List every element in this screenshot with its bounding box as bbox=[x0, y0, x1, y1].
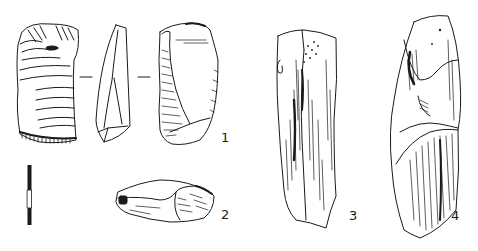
artifact-1-dorsal-view bbox=[17, 24, 79, 143]
artifact-plate: 1 2 3 4 bbox=[0, 0, 478, 251]
artifact-3 bbox=[277, 30, 337, 228]
artifact-drawings bbox=[0, 0, 478, 251]
scale-bar bbox=[28, 165, 32, 225]
artifact-label-4: 4 bbox=[451, 209, 459, 222]
artifact-label-3: 3 bbox=[349, 209, 357, 222]
artifact-1-profile-view bbox=[96, 25, 130, 142]
artifact-1-ventral-view bbox=[159, 23, 218, 145]
artifact-label-2: 2 bbox=[221, 208, 229, 221]
artifact-4 bbox=[390, 16, 460, 238]
artifact-2 bbox=[116, 180, 214, 222]
artifact-label-1: 1 bbox=[221, 131, 229, 144]
